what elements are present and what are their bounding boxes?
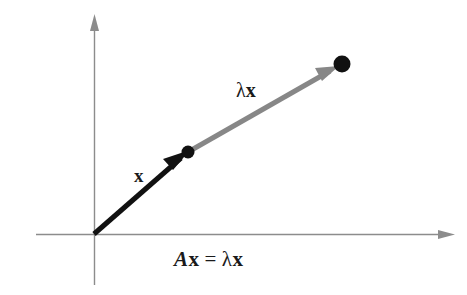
eigenvector-figure: x λx Ax=λx	[0, 0, 467, 295]
equation-matrix-symbol: A	[174, 247, 189, 271]
equation-caption: Ax=λx	[174, 249, 244, 270]
label-vector-x: x	[134, 166, 144, 185]
vector-lambda-x-shaft	[188, 71, 330, 152]
x-axis-arrowhead	[438, 230, 455, 239]
point-lambda-x-endpoint	[334, 56, 351, 73]
label-vector-x-text: x	[134, 165, 144, 186]
axes-group	[36, 14, 455, 285]
y-axis-arrowhead	[90, 14, 99, 31]
equation-lambda-symbol: λ	[222, 247, 233, 271]
vector-x	[94, 150, 190, 234]
equation-result-vector-symbol: x	[233, 247, 244, 271]
point-x-endpoint	[182, 146, 195, 159]
label-lambda-x-vector: x	[246, 79, 256, 101]
equation-vector-symbol: x	[189, 247, 200, 271]
equation-equals-symbol: =	[200, 247, 222, 271]
vector-lambda-x	[188, 66, 339, 152]
label-lambda-symbol: λ	[236, 79, 246, 101]
label-vector-lambda-x: λx	[236, 80, 256, 100]
